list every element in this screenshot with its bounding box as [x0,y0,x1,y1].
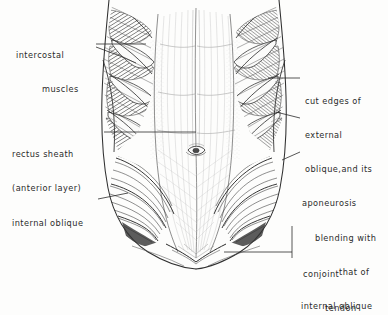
right-rib-cage [234,2,286,150]
right-internal-oblique [214,156,278,248]
left-rib-cage [102,2,154,150]
label-rectus-sheath-line1: rectus sheath [12,149,81,160]
label-cut-edges-line4: aponeurosis [302,198,387,209]
label-cut-edges-line3: oblique,and its [305,164,387,175]
left-internal-oblique [110,156,174,248]
label-conjoint-tendon-line1: conjoint [303,269,383,280]
label-intercostal-muscles-line2: muscles [16,84,79,95]
label-internal-oblique-line1: internal oblique [12,218,83,229]
label-cut-edges-line1: cut edges of [305,96,387,107]
label-rectus-sheath-line2: (anterior layer) [12,183,81,194]
label-internal-oblique: internal oblique [12,195,83,241]
label-rectus-sheath: rectus sheath (anterior layer) [12,126,81,206]
label-cut-edges-line2: external [305,130,387,141]
label-conjoint-tendon-line2: tendon [303,303,383,314]
label-intercostal-muscles-line1: intercostal [16,50,79,61]
label-conjoint-tendon: conjoint tendon [303,246,383,315]
label-cut-edges-line5: blending with [305,233,387,244]
label-intercostal-muscles: intercostal muscles [16,27,79,107]
illustration-ink [96,0,300,269]
leader-internal-oblique [98,193,128,199]
